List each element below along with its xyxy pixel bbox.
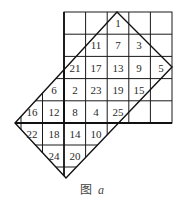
cell-number: 4 [93,106,99,118]
cell-number: 5 [158,62,164,74]
cell-number: 8 [72,106,78,118]
cell-number: 25 [113,106,125,118]
cell-number: 20 [70,150,82,162]
cell-number: 13 [113,62,125,74]
cell-number: 3 [136,39,142,51]
cell-number: 12 [49,106,60,118]
cell-number: 16 [27,106,39,118]
cell-number: 21 [70,62,81,74]
caption-letter: a [98,183,104,197]
cell-number: 14 [70,128,82,140]
cell-number: 1 [115,17,121,29]
cell-number: 22 [27,128,38,140]
lower-left-grid [0,0,184,200]
cell-number: 9 [136,62,142,74]
cell-number: 15 [134,84,146,96]
cell-number: 7 [115,39,121,51]
cell-number: 18 [49,128,61,140]
cell-number: 11 [91,39,102,51]
magic-square-diagram: 1117321171395622319151612842522181410242… [0,0,184,203]
cell-number: 10 [91,128,103,140]
cell-number: 19 [113,84,125,96]
cell-number: 24 [49,150,61,162]
cell-number: 6 [51,84,57,96]
cell-number: 17 [91,62,103,74]
figure-caption: 图a [0,180,184,198]
cell-number: 2 [72,84,78,96]
cell-number: 23 [91,84,103,96]
caption-label: 图 [80,183,98,197]
